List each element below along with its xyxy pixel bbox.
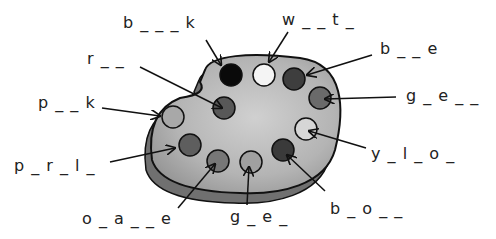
word-blank-yellow: y _ l _ o _: [371, 145, 455, 163]
paint-blob-white: [253, 64, 275, 86]
paint-blob-grey: [240, 151, 262, 173]
paint-blob-pink: [162, 106, 184, 128]
word-blank-white: w _ _ t _: [282, 11, 355, 29]
palette-worksheet: b _ _ _ kw _ _ t _b _ _ eg _ e _ _r _ _p…: [0, 0, 496, 239]
word-blank-blue: b _ _ e: [380, 40, 438, 58]
word-blank-red: r _ _: [87, 50, 125, 68]
word-blank-brown: b _ o _ _: [330, 200, 403, 218]
word-blank-orange: o _ a _ _ e: [82, 210, 172, 228]
word-blank-black: b _ _ _ k: [123, 14, 196, 32]
palette-illustration: [0, 0, 496, 239]
paint-blob-green: [309, 87, 331, 109]
arrow-pink: [102, 108, 160, 116]
word-blank-grey: g _ e _: [230, 208, 288, 226]
word-blank-green: g _ e _ _: [406, 87, 479, 105]
paint-blob-yellow: [295, 118, 317, 140]
word-blank-pink: p _ _ k: [38, 94, 96, 112]
paint-blob-blue: [283, 68, 305, 90]
paint-blob-purple: [179, 134, 201, 156]
paint-blob-red: [213, 97, 235, 119]
paint-blob-black: [220, 64, 242, 86]
word-blank-purple: p _ r _ l _: [14, 157, 96, 175]
